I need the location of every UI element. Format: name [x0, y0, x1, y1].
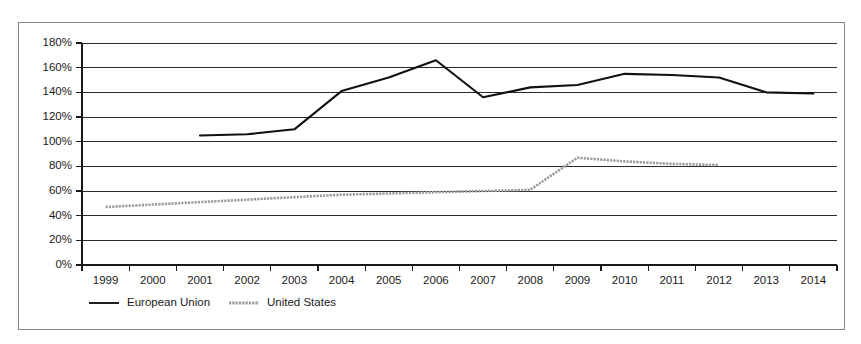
x-axis-tick-label: 2006 — [423, 274, 449, 286]
chart-frame: 0%20%40%60%80%100%120%140%160%180%199920… — [18, 22, 845, 330]
x-axis-tick-label: 2011 — [659, 274, 684, 286]
series-line-european-union — [200, 60, 813, 135]
chart-legend: European UnionUnited States — [89, 296, 336, 308]
y-axis-tick-label: 140% — [43, 85, 72, 97]
y-axis-tick-label: 80% — [49, 159, 72, 171]
x-axis-tick-label: 2009 — [565, 274, 591, 286]
data-series-group — [106, 60, 814, 207]
x-axis-tick-label: 2005 — [376, 274, 402, 286]
line-chart: 0%20%40%60%80%100%120%140%160%180%199920… — [19, 23, 846, 331]
x-axis-tick-label: 2013 — [753, 274, 779, 286]
gridlines — [82, 43, 837, 265]
x-axis-tick-label: 2012 — [706, 274, 732, 286]
x-axis: 1999200020012002200320042005200620072008… — [82, 265, 837, 286]
y-axis: 0%20%40%60%80%100%120%140%160%180% — [43, 36, 82, 270]
x-axis-tick-label: 2001 — [187, 274, 213, 286]
legend-item-label[interactable]: United States — [267, 296, 336, 308]
y-axis-tick-label: 160% — [43, 61, 72, 73]
x-axis-tick-label: 2003 — [282, 274, 308, 286]
y-axis-tick-label: 180% — [43, 36, 72, 48]
x-axis-tick-label: 2000 — [140, 274, 166, 286]
chart-plot-area: 0%20%40%60%80%100%120%140%160%180%199920… — [19, 23, 846, 331]
y-axis-tick-label: 20% — [49, 233, 72, 245]
x-axis-tick-label: 2014 — [801, 274, 827, 286]
y-axis-tick-label: 120% — [43, 110, 72, 122]
legend-item-label[interactable]: European Union — [127, 296, 210, 308]
y-axis-tick-label: 60% — [49, 184, 72, 196]
x-axis-tick-label: 2010 — [612, 274, 638, 286]
x-axis-tick-label: 2007 — [470, 274, 496, 286]
x-axis-tick-label: 2002 — [234, 274, 260, 286]
series-line-united-states — [106, 158, 719, 207]
x-axis-tick-label: 1999 — [93, 274, 119, 286]
x-axis-tick-label: 2008 — [517, 274, 543, 286]
y-axis-tick-label: 100% — [43, 135, 72, 147]
y-axis-tick-label: 40% — [49, 209, 72, 221]
x-axis-tick-label: 2004 — [329, 274, 355, 286]
y-axis-tick-label: 0% — [55, 258, 72, 270]
